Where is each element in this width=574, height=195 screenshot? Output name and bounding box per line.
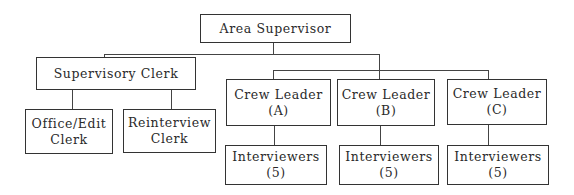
connector-crew-b-interviewers: [380, 125, 381, 146]
node-label-line2: (A): [268, 103, 289, 119]
connector-to-office-edit: [72, 89, 73, 110]
node-office-edit-clerk: Office/Edit Clerk: [25, 109, 113, 154]
node-label-line1: Interviewers: [232, 149, 320, 165]
node-label: Area Supervisor: [220, 21, 332, 37]
node-label-line1: Interviewers: [345, 149, 433, 165]
node-label: Supervisory Clerk: [54, 66, 179, 82]
connector-level1-horizontal: [104, 54, 380, 55]
node-crew-leader-b: Crew Leader (B): [337, 79, 435, 126]
node-label-line2: (5): [488, 165, 508, 181]
node-label-line2: (5): [266, 165, 286, 181]
node-label-line2: (C): [486, 102, 507, 118]
node-label-line2: (B): [376, 103, 397, 119]
node-label-line1: Crew Leader: [453, 86, 542, 102]
node-label-line1: Interviewers: [454, 149, 542, 165]
node-interviewers-c: Interviewers (5): [447, 145, 549, 185]
node-supervisory-clerk: Supervisory Clerk: [36, 57, 196, 90]
node-label-line2: Clerk: [151, 131, 189, 147]
connector-crew-a-interviewers: [274, 125, 275, 146]
node-label-line1: Crew Leader: [342, 87, 431, 103]
node-crew-leader-a: Crew Leader (A): [226, 79, 331, 126]
node-crew-leader-c: Crew Leader (C): [447, 79, 547, 125]
connector-to-crew-trunk: [379, 54, 380, 80]
node-label-line1: Office/Edit: [32, 116, 107, 132]
node-label-line1: Reinterview: [128, 115, 211, 131]
connector-crew-c-interviewers: [488, 124, 489, 146]
node-interviewers-a: Interviewers (5): [225, 145, 327, 185]
node-reinterview-clerk: Reinterview Clerk: [123, 109, 216, 153]
node-label-line2: (5): [379, 165, 399, 181]
connector-to-reinterview: [171, 89, 172, 110]
node-label-line1: Crew Leader: [234, 87, 323, 103]
node-area-supervisor: Area Supervisor: [200, 14, 351, 43]
node-interviewers-b: Interviewers (5): [339, 145, 439, 185]
connector-crew-horizontal: [273, 70, 489, 71]
node-label-line2: Clerk: [50, 132, 88, 148]
